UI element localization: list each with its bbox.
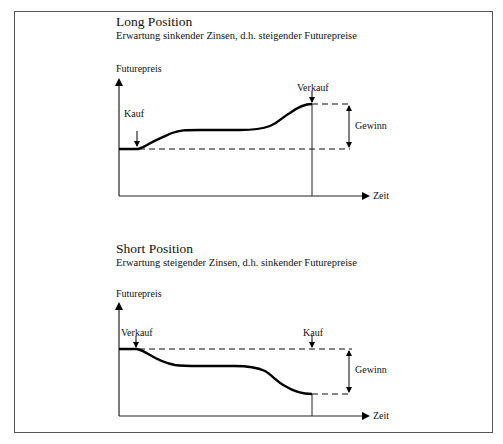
diagram-canvas	[0, 0, 503, 444]
long-chart	[119, 82, 366, 196]
short-chart	[119, 306, 366, 416]
short-price-curve	[119, 349, 312, 394]
long-price-curve	[119, 104, 312, 149]
